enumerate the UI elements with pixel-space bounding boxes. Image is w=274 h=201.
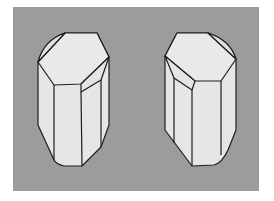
left-crystal [38,33,109,166]
figure: Enantiomorphic crystal forms [0,0,274,201]
crystal-diagram [0,0,274,201]
